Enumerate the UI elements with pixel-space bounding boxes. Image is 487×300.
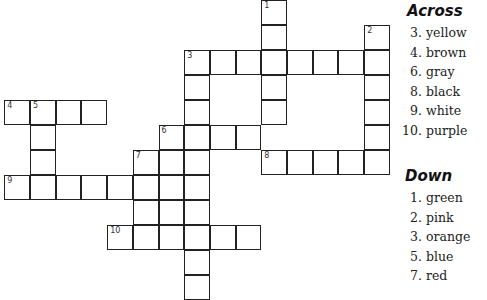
clue-number: 2 — [367, 26, 372, 36]
clue-across-6: 6.gray — [400, 62, 487, 82]
grid-cell[interactable] — [30, 175, 56, 200]
clue-number: 1 — [264, 1, 269, 11]
grid-cell[interactable] — [107, 175, 133, 200]
grid-cell[interactable] — [184, 100, 210, 125]
grid-cell[interactable] — [236, 50, 262, 75]
grid-cell[interactable] — [184, 225, 210, 250]
clue-across-4: 4.brown — [400, 43, 487, 63]
grid-cell[interactable] — [364, 150, 390, 175]
grid-cell[interactable] — [184, 250, 210, 275]
down-clues: Down 1.green 2.pink 3.orange 5.blue 7.re… — [400, 167, 487, 286]
grid-cell[interactable]: 3 — [184, 50, 210, 75]
grid-cell[interactable] — [261, 50, 287, 75]
clue-across-10: 10.purple — [400, 121, 487, 141]
grid-cell[interactable]: 5 — [30, 100, 56, 125]
clue-across-3: 3.yellow — [400, 23, 487, 43]
grid-cell[interactable] — [364, 100, 390, 125]
clue-number: 10 — [110, 226, 120, 236]
grid-cell[interactable] — [261, 75, 287, 100]
grid-cell[interactable] — [159, 150, 185, 175]
grid-cell[interactable] — [184, 75, 210, 100]
grid-cell[interactable] — [364, 75, 390, 100]
grid-cell[interactable] — [210, 125, 236, 150]
grid-cell[interactable] — [261, 100, 287, 125]
grid-cell[interactable] — [133, 225, 159, 250]
grid-cell[interactable] — [184, 125, 210, 150]
grid-cell[interactable] — [338, 150, 364, 175]
grid-cell[interactable] — [30, 150, 56, 175]
grid-cell[interactable] — [287, 50, 313, 75]
grid-cell[interactable] — [81, 100, 107, 125]
clue-down-1: 1.green — [400, 188, 487, 208]
grid-cell[interactable] — [159, 200, 185, 225]
clue-down-3: 3.orange — [400, 227, 487, 247]
grid-cell[interactable]: 10 — [107, 225, 133, 250]
grid-cell[interactable] — [210, 225, 236, 250]
grid-cell[interactable]: 9 — [4, 175, 30, 200]
grid-cell[interactable]: 7 — [133, 150, 159, 175]
grid-cell[interactable] — [313, 150, 339, 175]
grid-cell[interactable] — [56, 175, 82, 200]
clue-across-8: 8.black — [400, 82, 487, 102]
grid-cell[interactable] — [236, 225, 262, 250]
clue-number: 7 — [136, 151, 141, 161]
clue-number: 4 — [7, 101, 12, 111]
clue-down-2: 2.pink — [400, 208, 487, 228]
grid-cell[interactable] — [184, 175, 210, 200]
grid-cell[interactable] — [159, 225, 185, 250]
grid-cell[interactable] — [30, 125, 56, 150]
grid-cell[interactable] — [81, 175, 107, 200]
grid-cell[interactable] — [287, 150, 313, 175]
grid-cell[interactable] — [210, 50, 236, 75]
grid-cell[interactable] — [133, 175, 159, 200]
across-heading: Across — [407, 2, 487, 20]
clue-number: 8 — [264, 151, 269, 161]
clue-number: 5 — [33, 101, 38, 111]
grid-cell[interactable] — [159, 175, 185, 200]
clue-across-9: 9.white — [400, 101, 487, 121]
clue-down-5: 5.blue — [400, 247, 487, 267]
crossword-grid: 12345678910 — [0, 0, 400, 290]
clue-number: 3 — [187, 51, 192, 61]
grid-cell[interactable]: 1 — [261, 0, 287, 25]
grid-cell[interactable] — [338, 50, 364, 75]
grid-cell[interactable] — [184, 150, 210, 175]
clue-down-7: 7.red — [400, 266, 487, 286]
grid-cell[interactable]: 4 — [4, 100, 30, 125]
grid-cell[interactable] — [133, 200, 159, 225]
grid-cell[interactable] — [184, 275, 210, 300]
clue-number: 9 — [7, 176, 12, 186]
grid-cell[interactable]: 6 — [159, 125, 185, 150]
grid-cell[interactable] — [313, 50, 339, 75]
down-heading: Down — [405, 167, 487, 185]
grid-cell[interactable] — [364, 50, 390, 75]
clue-number: 6 — [162, 126, 167, 136]
across-clues: Across 3.yellow 4.brown 6.gray 8.black 9… — [400, 2, 487, 140]
grid-cell[interactable] — [261, 25, 287, 50]
grid-cell[interactable]: 2 — [364, 25, 390, 50]
grid-cell[interactable] — [364, 125, 390, 150]
grid-cell[interactable]: 8 — [261, 150, 287, 175]
grid-cell[interactable] — [56, 100, 82, 125]
grid-cell[interactable] — [236, 125, 262, 150]
grid-cell[interactable] — [184, 200, 210, 225]
